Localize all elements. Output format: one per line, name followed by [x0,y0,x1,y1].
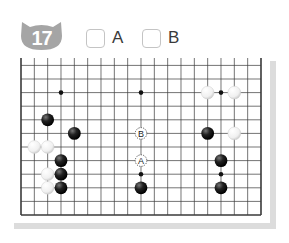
black-stone[interactable] [55,154,68,167]
black-stone[interactable] [55,181,68,194]
white-stone[interactable] [41,141,54,154]
white-stone[interactable] [228,127,241,140]
star-point [139,172,144,177]
board-edge-right [270,61,276,229]
white-stone[interactable] [41,168,54,181]
white-stone[interactable] [228,86,241,99]
board-edge-bottom [14,223,276,229]
star-point [219,172,224,177]
black-stone[interactable] [41,113,54,126]
go-board-svg[interactable]: BA [0,0,289,243]
board-surface [14,58,270,223]
black-stone[interactable] [215,181,228,194]
go-board[interactable]: BA [0,0,289,243]
star-point [59,90,64,95]
marker-a-label: A [138,156,144,166]
white-stone[interactable] [28,141,41,154]
star-point [219,90,224,95]
white-stone[interactable] [41,181,54,194]
black-stone[interactable] [68,127,81,140]
white-stone[interactable] [201,86,214,99]
marker-b-label: B [138,129,144,139]
black-stone[interactable] [135,181,148,194]
star-point [139,90,144,95]
black-stone[interactable] [201,127,214,140]
black-stone[interactable] [215,154,228,167]
black-stone[interactable] [55,168,68,181]
